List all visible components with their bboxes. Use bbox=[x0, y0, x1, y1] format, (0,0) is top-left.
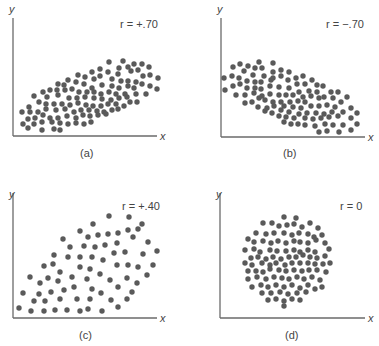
data-point bbox=[335, 113, 340, 118]
data-point bbox=[55, 92, 60, 97]
data-point bbox=[54, 87, 59, 92]
data-point bbox=[262, 97, 267, 102]
data-point bbox=[115, 304, 120, 309]
data-point bbox=[321, 94, 326, 99]
data-point bbox=[260, 238, 265, 243]
data-point bbox=[274, 248, 279, 253]
data-point bbox=[139, 81, 144, 86]
data-point bbox=[97, 271, 102, 276]
y-axis-label: y bbox=[8, 188, 16, 200]
data-point bbox=[291, 115, 296, 120]
data-point bbox=[41, 263, 46, 268]
data-point bbox=[48, 289, 53, 294]
data-point bbox=[255, 104, 260, 109]
data-point bbox=[91, 95, 96, 100]
data-point bbox=[329, 109, 334, 114]
data-point bbox=[140, 251, 145, 256]
data-point bbox=[294, 274, 299, 279]
data-point bbox=[276, 92, 281, 97]
data-point bbox=[71, 284, 76, 289]
data-point bbox=[97, 66, 102, 71]
data-point bbox=[335, 89, 340, 94]
data-point bbox=[47, 87, 52, 92]
data-point bbox=[320, 261, 325, 266]
data-point bbox=[143, 91, 148, 96]
correlation-label: r = −.70 bbox=[326, 18, 364, 30]
data-point bbox=[49, 119, 54, 124]
data-point bbox=[128, 68, 133, 73]
data-point bbox=[273, 260, 278, 265]
data-point bbox=[253, 268, 258, 273]
data-point bbox=[338, 99, 343, 104]
data-point bbox=[105, 101, 110, 106]
data-point bbox=[57, 296, 62, 301]
panel-a: y x r = +.70 (a) bbox=[8, 3, 166, 159]
data-point bbox=[276, 84, 281, 89]
data-point bbox=[113, 101, 118, 106]
data-point bbox=[27, 274, 32, 279]
data-point bbox=[259, 290, 264, 295]
data-point bbox=[105, 69, 110, 74]
data-point bbox=[51, 126, 56, 131]
data-point bbox=[89, 69, 94, 74]
data-point bbox=[276, 113, 281, 118]
data-point bbox=[147, 83, 152, 88]
data-point bbox=[154, 86, 159, 91]
data-point bbox=[286, 254, 291, 259]
data-point bbox=[75, 72, 80, 77]
data-point bbox=[61, 82, 66, 87]
scatter-points bbox=[242, 214, 332, 308]
data-point bbox=[115, 284, 120, 289]
data-point bbox=[327, 260, 332, 265]
data-point bbox=[260, 269, 265, 274]
data-point bbox=[40, 112, 45, 117]
data-point bbox=[261, 73, 266, 78]
panel-caption: (a) bbox=[80, 147, 93, 159]
data-point bbox=[344, 94, 349, 99]
data-point bbox=[31, 93, 36, 98]
data-point bbox=[286, 109, 291, 114]
data-point bbox=[289, 296, 294, 301]
data-point bbox=[278, 73, 283, 78]
data-point bbox=[75, 100, 80, 105]
data-point bbox=[84, 89, 89, 94]
data-point bbox=[80, 112, 85, 117]
data-point bbox=[95, 232, 100, 237]
data-point bbox=[125, 227, 130, 232]
data-point bbox=[265, 284, 270, 289]
data-point bbox=[229, 73, 234, 78]
data-point bbox=[253, 230, 258, 235]
data-point bbox=[237, 61, 242, 66]
data-point bbox=[273, 296, 278, 301]
data-point bbox=[300, 252, 305, 257]
data-point bbox=[308, 93, 313, 98]
data-point bbox=[233, 92, 238, 97]
data-point bbox=[268, 290, 273, 295]
data-point bbox=[302, 99, 307, 104]
data-point bbox=[242, 260, 247, 265]
data-point bbox=[95, 112, 100, 117]
data-point bbox=[308, 103, 313, 108]
data-point bbox=[281, 214, 286, 219]
data-point bbox=[155, 75, 160, 80]
correlation-label: r = +.70 bbox=[120, 18, 158, 30]
data-point bbox=[252, 79, 257, 84]
data-point bbox=[310, 116, 315, 121]
data-point bbox=[39, 119, 44, 124]
data-point bbox=[299, 224, 304, 229]
data-point bbox=[62, 87, 67, 92]
data-point bbox=[314, 267, 319, 272]
data-point bbox=[251, 239, 256, 244]
data-point bbox=[309, 77, 314, 82]
data-point bbox=[77, 228, 82, 233]
data-point bbox=[295, 98, 300, 103]
data-point bbox=[302, 81, 307, 86]
x-axis-label: x bbox=[159, 130, 166, 142]
data-point bbox=[116, 95, 121, 100]
data-point bbox=[258, 282, 263, 287]
data-point bbox=[145, 239, 150, 244]
data-point bbox=[312, 123, 317, 128]
data-point bbox=[87, 266, 92, 271]
data-point bbox=[257, 249, 262, 254]
data-point bbox=[124, 94, 129, 99]
